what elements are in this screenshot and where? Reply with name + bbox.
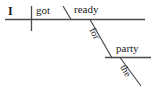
- word-subject: I: [8, 5, 13, 17]
- sentence-diagram: I got ready for party the: [0, 0, 153, 88]
- word-verb: got: [36, 5, 50, 16]
- word-object-of-preposition: party: [116, 43, 139, 54]
- predicate-adjective-slant-line: [63, 6, 71, 20]
- word-predicate-adjective: ready: [74, 4, 98, 15]
